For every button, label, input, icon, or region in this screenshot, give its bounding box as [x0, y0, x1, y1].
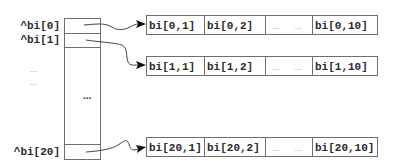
- cell-ellipsis: ... ...: [273, 144, 302, 153]
- cell-label: bi[20,1]: [149, 142, 202, 154]
- cell-label: bi[20,10]: [315, 142, 374, 154]
- pointer-label-1: ^bi[1]: [20, 34, 60, 46]
- cell-label: bi[0,2]: [207, 20, 253, 32]
- pointer-label-0: ^bi[0]: [20, 20, 60, 32]
- data-rows: bi[0,1]bi[0,2]... ...bi[0,10]bi[1,1]bi[1…: [147, 16, 378, 157]
- left-ellipsis: ...: [30, 78, 37, 87]
- pointer-column: ...: [65, 19, 101, 160]
- cell-ellipsis: ... ...: [273, 22, 302, 31]
- data-row: bi[0,1]bi[0,2]... ...bi[0,10]: [147, 16, 378, 35]
- cell-label: bi[1,2]: [207, 61, 253, 73]
- pointer-array-diagram: ... ^bi[0] ^bi[1] ^bi[20] ... ... bi[0,1…: [0, 0, 393, 165]
- cell-label: bi[0,1]: [149, 20, 195, 32]
- cell-label: bi[1,1]: [149, 61, 195, 73]
- pointer-label-20: ^bi[20]: [14, 146, 60, 158]
- column-ellipsis: ...: [83, 90, 92, 101]
- data-row: bi[1,1]bi[1,2]... ...bi[1,10]: [147, 57, 378, 76]
- cell-label: bi[0,10]: [315, 20, 368, 32]
- cell-label: bi[20,2]: [207, 142, 260, 154]
- cell-ellipsis: ... ...: [273, 63, 302, 72]
- pointer-column-box: [65, 19, 101, 160]
- cell-label: bi[1,10]: [315, 61, 368, 73]
- left-ellipsis: ...: [30, 65, 37, 74]
- data-row: bi[20,1]bi[20,2]... ...bi[20,10]: [147, 138, 378, 157]
